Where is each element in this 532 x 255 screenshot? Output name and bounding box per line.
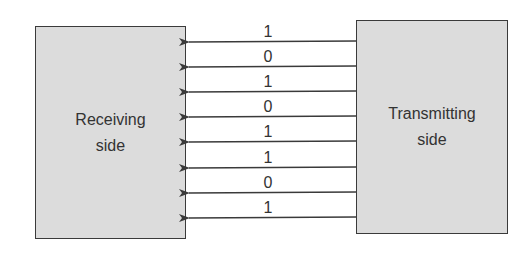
data-line-arrow-4 — [189, 116, 356, 117]
data-line-arrow-5 — [189, 141, 356, 142]
data-line-arrow-2 — [189, 66, 356, 67]
bit-label-2: 0 — [258, 49, 278, 65]
bit-label-6: 1 — [258, 150, 278, 166]
data-line-arrow-1 — [189, 41, 356, 42]
data-line-arrow-7 — [189, 192, 356, 193]
bit-label-7: 0 — [258, 175, 278, 191]
data-line-arrow-3 — [189, 91, 356, 92]
bit-label-1: 1 — [258, 24, 278, 40]
data-line-arrow-8 — [189, 217, 356, 218]
bit-label-4: 0 — [258, 99, 278, 115]
bit-label-8: 1 — [258, 200, 278, 216]
bit-label-3: 1 — [258, 74, 278, 90]
bit-label-5: 1 — [258, 124, 278, 140]
data-line-arrow-6 — [189, 167, 356, 168]
